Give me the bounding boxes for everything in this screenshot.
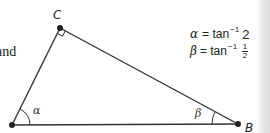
angle-beta-label: β bbox=[194, 107, 201, 120]
vertex-b-label: B bbox=[245, 121, 253, 133]
formula-alpha-exponent: −1 bbox=[230, 21, 239, 38]
fraction-numerator: 1 bbox=[243, 43, 247, 51]
formula-alpha-symbol: α bbox=[190, 26, 198, 43]
vertex-c-dot bbox=[57, 25, 63, 31]
formula-alpha-value: 2 bbox=[242, 26, 249, 43]
angle-arc-beta bbox=[212, 112, 215, 125]
right-triangle-diagram: C B α β bbox=[0, 0, 270, 133]
formula-beta-tan: = tan bbox=[200, 43, 227, 60]
side-ab bbox=[12, 124, 238, 125]
formula-beta: β = tan −1 1 2 bbox=[190, 43, 250, 60]
vertex-b-dot bbox=[235, 121, 241, 127]
formula-beta-symbol: β bbox=[190, 43, 197, 60]
formula-alpha-tan: = tan bbox=[202, 26, 229, 43]
formula-alpha: α = tan −1 2 bbox=[190, 26, 250, 43]
fraction-denominator: 2 bbox=[243, 52, 247, 60]
vertex-a-dot bbox=[9, 122, 15, 128]
vertex-c-label: C bbox=[53, 8, 62, 22]
angle-alpha-label: α bbox=[33, 104, 41, 117]
angle-formulas: α = tan −1 2 β = tan −1 1 2 bbox=[190, 26, 250, 60]
formula-beta-exponent: −1 bbox=[228, 38, 237, 55]
angle-arc-alpha bbox=[20, 109, 30, 125]
formula-beta-fraction: 1 2 bbox=[242, 43, 248, 60]
